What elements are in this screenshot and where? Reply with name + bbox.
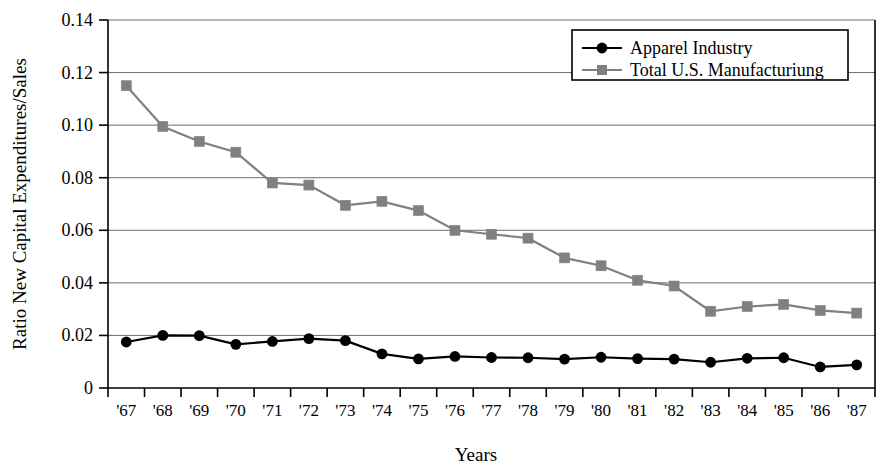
x-tick-label: '70: [226, 401, 246, 420]
x-tick-label: '87: [847, 401, 868, 420]
data-point-marker: [742, 302, 752, 312]
data-point-marker: [340, 335, 351, 346]
legend-label: Total U.S. Manufacturiung: [630, 60, 824, 80]
x-tick-label: '80: [591, 401, 611, 420]
data-point-marker: [779, 299, 789, 309]
data-point-marker: [267, 178, 277, 188]
x-tick-label: '74: [372, 401, 393, 420]
y-tick-label: 0.06: [62, 220, 94, 240]
x-tick-label: '75: [408, 401, 428, 420]
x-tick-label: '78: [518, 401, 538, 420]
data-point-marker: [304, 180, 314, 190]
data-point-marker: [559, 354, 570, 365]
x-tick-label: '86: [810, 401, 830, 420]
x-tick-label: '68: [153, 401, 173, 420]
data-point-marker: [230, 339, 241, 350]
data-point-marker: [487, 229, 497, 239]
x-tick-label: '72: [299, 401, 319, 420]
chart-figure: 00.020.040.060.080.100.120.14 '67'68'69'…: [0, 0, 893, 471]
x-tick-label: '79: [555, 401, 575, 420]
data-point-marker: [450, 351, 461, 362]
data-point-marker: [778, 352, 789, 363]
data-point-marker: [742, 353, 753, 364]
data-point-marker: [450, 225, 460, 235]
data-point-marker: [706, 306, 716, 316]
data-point-marker: [560, 253, 570, 263]
data-point-marker: [194, 136, 204, 146]
y-tick-label: 0.12: [62, 63, 94, 83]
y-axis-label: Ratio New Capital Expenditures/Sales: [9, 58, 30, 350]
data-point-marker: [413, 206, 423, 216]
data-point-marker: [194, 330, 205, 341]
data-point-marker: [121, 337, 132, 348]
legend-label: Apparel Industry: [630, 38, 752, 58]
data-point-marker: [633, 275, 643, 285]
data-point-marker: [413, 353, 424, 364]
data-point-marker: [340, 200, 350, 210]
circle-marker: [597, 43, 608, 54]
data-point-marker: [596, 352, 607, 363]
chart-legend: Apparel IndustryTotal U.S. Manufacturiun…: [572, 30, 848, 80]
y-tick-label: 0.02: [62, 325, 94, 345]
data-point-marker: [523, 352, 534, 363]
data-point-marker: [267, 336, 278, 347]
x-tick-label: '76: [445, 401, 465, 420]
data-point-marker: [815, 305, 825, 315]
y-tick-label: 0.04: [62, 273, 94, 293]
x-tick-label: '69: [189, 401, 209, 420]
data-point-marker: [815, 362, 826, 373]
x-tick-label: '85: [774, 401, 794, 420]
x-tick-label: '82: [664, 401, 684, 420]
data-point-marker: [121, 81, 131, 91]
x-tick-label: '77: [481, 401, 502, 420]
y-tick-label: 0.10: [62, 115, 94, 135]
data-point-marker: [486, 352, 497, 363]
x-tick-label: '81: [628, 401, 648, 420]
x-tick-label: '73: [335, 401, 355, 420]
y-tick-label: 0.08: [62, 168, 94, 188]
data-point-marker: [377, 348, 388, 359]
data-point-marker: [157, 330, 168, 341]
data-point-marker: [596, 261, 606, 271]
data-point-marker: [158, 121, 168, 131]
data-point-marker: [632, 353, 643, 364]
data-point-marker: [669, 281, 679, 291]
data-point-marker: [303, 333, 314, 344]
data-point-marker: [669, 354, 680, 365]
y-tick-label: 0: [84, 378, 93, 398]
x-tick-label: '84: [737, 401, 758, 420]
data-point-marker: [231, 147, 241, 157]
x-tick-label: '71: [262, 401, 282, 420]
y-tick-label: 0.14: [62, 10, 94, 30]
data-point-marker: [851, 359, 862, 370]
data-point-marker: [705, 357, 716, 368]
x-tick-label: '67: [116, 401, 137, 420]
line-chart: 00.020.040.060.080.100.120.14 '67'68'69'…: [0, 0, 893, 471]
x-axis-label: Years: [455, 444, 497, 465]
x-tick-label: '83: [701, 401, 721, 420]
data-point-marker: [523, 233, 533, 243]
data-point-marker: [377, 196, 387, 206]
square-marker: [597, 65, 607, 75]
data-point-marker: [852, 308, 862, 318]
